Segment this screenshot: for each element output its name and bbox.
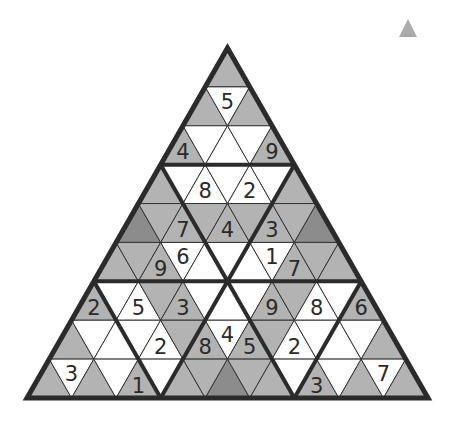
given-digit: 5	[243, 335, 256, 359]
given-digit: 8	[199, 179, 212, 203]
given-digit: 6	[354, 296, 367, 320]
given-digit: 3	[265, 218, 278, 242]
given-digit: 8	[310, 296, 323, 320]
given-digit: 1	[265, 245, 278, 269]
given-digit: 2	[288, 335, 301, 359]
given-digit: 4	[221, 323, 234, 347]
given-digit: 3	[65, 362, 78, 386]
given-digit: 3	[310, 374, 323, 398]
given-digit: 5	[221, 90, 234, 114]
given-digit: 6	[176, 245, 189, 269]
given-digit: 8	[199, 335, 212, 359]
given-digit: 9	[265, 140, 278, 164]
given-digit: 7	[377, 362, 390, 386]
given-digit: 2	[154, 335, 167, 359]
given-digit: 4	[221, 218, 234, 242]
given-digit: 2	[87, 296, 100, 320]
puzzle-board: 549827439617253986284523137	[0, 0, 451, 422]
given-digit: 7	[288, 257, 301, 281]
given-digit: 4	[176, 140, 189, 164]
given-digit: 1	[132, 374, 145, 398]
given-digit: 9	[154, 257, 167, 281]
given-digit: 9	[265, 296, 278, 320]
puzzle-cell[interactable]	[205, 48, 250, 87]
given-digit: 2	[243, 179, 256, 203]
given-digit: 3	[176, 296, 189, 320]
given-digit: 7	[176, 218, 189, 242]
given-digit: 5	[132, 296, 145, 320]
